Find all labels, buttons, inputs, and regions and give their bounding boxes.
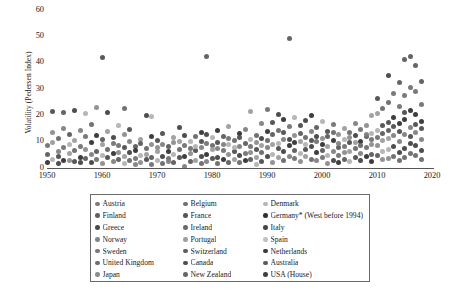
data-point — [281, 158, 286, 163]
data-point — [100, 142, 105, 147]
data-point — [314, 158, 319, 163]
data-point — [67, 151, 72, 156]
data-point — [215, 146, 220, 151]
legend-item: Belgium — [183, 198, 263, 210]
data-point — [204, 159, 209, 164]
data-point — [166, 149, 171, 154]
data-point — [67, 132, 72, 137]
data-point — [89, 122, 94, 127]
data-point — [254, 162, 259, 167]
data-point — [419, 157, 424, 162]
data-point — [369, 113, 374, 118]
data-point — [375, 135, 380, 140]
legend-label: Switzerland — [191, 247, 227, 256]
data-point — [94, 133, 99, 138]
data-point — [325, 153, 330, 158]
data-point — [353, 146, 358, 151]
data-point — [402, 155, 407, 160]
data-point — [116, 143, 121, 148]
data-point — [237, 135, 242, 140]
data-point — [292, 156, 297, 161]
data-point — [336, 153, 341, 158]
data-point — [89, 140, 94, 145]
data-point — [204, 132, 209, 137]
data-point — [325, 161, 330, 166]
data-point — [155, 138, 160, 143]
data-point — [270, 152, 275, 157]
data-point — [391, 91, 396, 96]
legend-label: New Zealand — [191, 270, 232, 279]
data-point — [358, 143, 363, 148]
legend-grid: AustriaBelgiumDenmarkFinlandFranceGerman… — [95, 198, 366, 279]
data-point — [380, 123, 385, 128]
data-point — [254, 147, 259, 152]
legend-marker-icon — [183, 202, 188, 207]
data-point — [160, 161, 165, 166]
data-point — [226, 152, 231, 157]
data-point — [122, 161, 127, 166]
data-point — [380, 157, 385, 162]
data-point — [358, 151, 363, 156]
legend-label: Austria — [103, 199, 125, 208]
data-point — [83, 156, 88, 161]
data-point — [100, 137, 105, 142]
data-point — [276, 155, 281, 160]
legend-item: Austria — [95, 198, 183, 210]
data-point — [391, 154, 396, 159]
legend-item: United Kingdom — [95, 257, 183, 269]
data-point — [402, 146, 407, 151]
y-tick-60: 60 — [18, 6, 44, 14]
legend-item: Ireland — [183, 222, 263, 234]
legend-item: Denmark — [263, 198, 373, 210]
legend-label: Netherlands — [271, 247, 308, 256]
data-point — [353, 140, 358, 145]
legend-marker-icon — [263, 237, 268, 242]
data-point — [210, 156, 215, 161]
data-point — [303, 154, 308, 159]
data-point — [226, 142, 231, 147]
data-point — [243, 158, 248, 163]
data-point — [149, 134, 154, 139]
legend-marker-icon — [183, 261, 188, 266]
data-point — [331, 158, 336, 163]
x-tick-1960: 1960 — [82, 171, 122, 181]
data-point — [160, 142, 165, 147]
data-point — [89, 160, 94, 165]
data-point — [166, 144, 171, 149]
data-point — [342, 137, 347, 142]
data-point — [336, 160, 341, 165]
data-point — [83, 147, 88, 152]
data-point — [347, 159, 352, 164]
x-axis-tick-labels: 19501960197019801990200020102020 — [0, 171, 452, 185]
data-point — [298, 123, 303, 128]
data-point — [105, 110, 110, 115]
data-point — [193, 158, 198, 163]
data-point — [320, 155, 325, 160]
legend-item: New Zealand — [183, 269, 263, 281]
data-point — [111, 159, 116, 164]
data-point — [309, 157, 314, 162]
legend-label: Germany* (West before 1994) — [271, 211, 363, 220]
data-point — [204, 152, 209, 157]
data-point — [133, 156, 138, 161]
data-point — [364, 132, 369, 137]
data-point — [127, 150, 132, 155]
data-point — [281, 149, 286, 154]
data-point — [72, 138, 77, 143]
data-point — [243, 141, 248, 146]
data-point — [45, 143, 50, 148]
data-point — [105, 155, 110, 160]
data-point — [419, 126, 424, 131]
data-point — [287, 154, 292, 159]
data-point — [149, 142, 154, 147]
data-point — [292, 115, 297, 120]
data-point — [226, 124, 231, 129]
data-point — [149, 155, 154, 160]
data-point — [408, 134, 413, 139]
data-point — [188, 151, 193, 156]
data-point — [210, 147, 215, 152]
data-point — [133, 148, 138, 153]
data-point — [276, 146, 281, 151]
data-point — [105, 147, 110, 152]
legend-label: Ireland — [191, 223, 213, 232]
